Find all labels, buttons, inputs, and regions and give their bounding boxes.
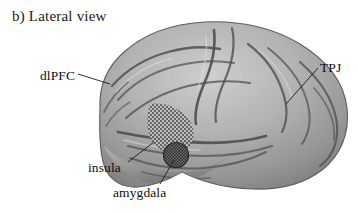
- region-label-amygdala: amygdala: [113, 185, 166, 201]
- amygdala-region-marker: [164, 143, 189, 168]
- brain-svg: [0, 0, 358, 213]
- region-label-insula: insula: [88, 160, 121, 176]
- lateral-view-brain-figure: b) Lateral view: [0, 0, 358, 213]
- region-label-dlpfc: dlPFC: [40, 68, 75, 84]
- region-label-tpj: TPJ: [320, 60, 341, 76]
- brain-illustration: [0, 0, 358, 213]
- cerebrum-silhouette: [100, 22, 348, 189]
